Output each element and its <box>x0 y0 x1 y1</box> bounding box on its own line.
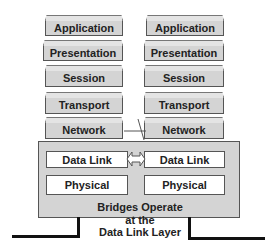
right-transport-layer: Transport <box>144 96 224 114</box>
left-network-layer: Network <box>45 121 123 139</box>
left-data-link-layer: Data Link <box>46 151 128 168</box>
left-session-layer: Session <box>45 69 123 87</box>
right-network-layer: Network <box>144 121 224 139</box>
right-data-link-layer: Data Link <box>144 151 225 168</box>
left-application-layer: Application <box>45 19 123 36</box>
bidirectional-arrow-icon <box>126 149 146 169</box>
caption-line-2: at the <box>80 214 200 227</box>
right-physical-layer: Physical <box>144 175 225 195</box>
right-application-layer: Application <box>146 19 224 36</box>
caption-line-3: Data Link Layer <box>80 226 200 239</box>
left-transport-layer: Transport <box>45 96 123 114</box>
caption-line-1: Bridges Operate <box>80 201 200 214</box>
right-presentation-layer: Presentation <box>144 44 224 61</box>
left-physical-layer: Physical <box>46 175 128 195</box>
left-wire-horizontal <box>12 235 80 238</box>
right-session-layer: Session <box>144 69 224 87</box>
caption: Bridges Operate at the Data Link Layer <box>80 201 200 239</box>
network-connector-icon <box>120 118 150 142</box>
left-presentation-layer: Presentation <box>43 44 123 61</box>
